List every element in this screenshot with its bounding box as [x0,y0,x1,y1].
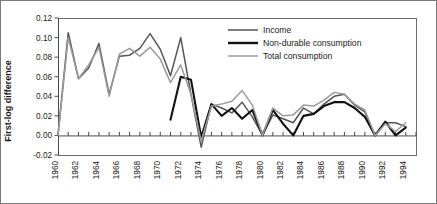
data-series-group [58,33,406,147]
line-chart: -0.020.000.020.040.060.080.100.12 196019… [0,0,437,204]
series-line-total-consumption [58,38,406,142]
x-tick-label: 1968 [133,161,142,180]
x-tick-label: 1974 [194,161,203,180]
x-axis [58,132,416,136]
y-tick-label: -0.02 [33,151,52,160]
x-tick-label: 1966 [112,161,121,180]
y-tick-label: 0.02 [36,112,52,121]
x-tick-label: 1962 [71,161,80,180]
x-tick-label: 1964 [92,161,101,180]
x-tick-label: 1976 [215,161,224,180]
x-tick-label: 1980 [256,161,265,180]
x-tick-label: 1960 [51,161,60,180]
x-tick-label: 1970 [153,161,162,180]
x-tick-label: 1978 [235,161,244,180]
x-tick-label: 1990 [358,161,367,180]
plot-area-border [59,19,417,156]
y-tick-label: 0.04 [36,92,52,101]
x-tick-label: 1986 [317,161,326,180]
x-tick-label: 1984 [296,161,305,180]
x-tick-label: 1972 [174,161,183,180]
x-tick-label: 1994 [399,161,408,180]
y-tick-label: 0.10 [36,34,52,43]
legend-label-0: Income [263,25,291,35]
legend-label-2: Total consumption [263,51,332,61]
x-tick-label: 1982 [276,161,285,180]
x-tick-label: 1992 [378,161,387,180]
chart-legend: IncomeNon-durable consumptionTotal consu… [228,25,362,61]
y-tick-label: 0.12 [36,14,52,23]
chart-container: -0.020.000.020.040.060.080.100.12 196019… [0,0,437,204]
y-tick-label: 0.06 [36,73,52,82]
legend-label-1: Non-durable consumption [263,38,362,48]
y-axis-title: First-log difference [3,60,13,142]
x-tick-label: 1988 [337,161,346,180]
x-tick-labels: 1960196219641966196819701972197419761978… [51,161,408,180]
y-tick-labels: -0.020.000.020.040.060.080.100.12 [33,14,52,160]
y-tick-label: 0.00 [36,131,52,140]
y-tick-label: 0.08 [36,53,52,62]
plot-frame [59,19,417,156]
